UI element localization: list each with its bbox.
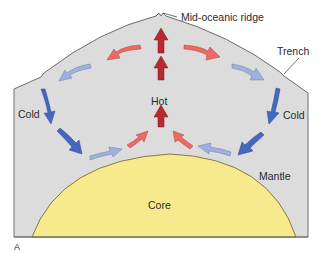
mantle-label: Mantle	[259, 171, 291, 182]
cold-label-left: Cold	[18, 109, 40, 120]
trench-label: Trench	[277, 46, 309, 57]
core-label: Core	[148, 200, 171, 211]
hot-label: Hot	[151, 96, 167, 107]
trench-leader-line	[284, 58, 299, 74]
convection-diagram	[0, 0, 322, 254]
ridge-label: Mid-oceanic ridge	[181, 12, 264, 23]
cold-label-right: Cold	[283, 110, 305, 121]
panel-label: A	[14, 243, 20, 252]
